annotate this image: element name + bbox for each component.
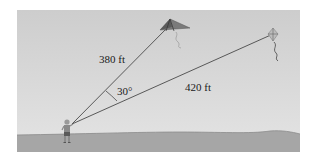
string-length-label-380: 380 ft <box>99 54 125 65</box>
sky-background <box>17 10 300 152</box>
kite-diagram <box>0 0 316 157</box>
string-length-label-420: 420 ft <box>185 82 211 93</box>
angle-label: 30° <box>117 86 132 97</box>
